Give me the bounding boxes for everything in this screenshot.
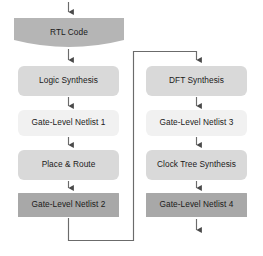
node-place-and-route-label: Place & Route	[42, 160, 96, 169]
node-gate-level-netlist-2-label: Gate-Level Netlist 2	[32, 200, 106, 209]
node-dft-synthesis-label: DFT Synthesis	[169, 76, 224, 85]
node-rtl-code[interactable]: RTL Code	[14, 18, 124, 47]
node-clock-tree-synthesis[interactable]: Clock Tree Synthesis	[146, 150, 247, 180]
node-gate-level-netlist-1-label: Gate-Level Netlist 1	[32, 118, 106, 127]
flowchart-diagram: RTL Code Logic Synthesis Gate-Level Netl…	[0, 0, 263, 256]
node-gate-level-netlist-2[interactable]: Gate-Level Netlist 2	[18, 193, 119, 217]
node-clock-tree-synthesis-label: Clock Tree Synthesis	[157, 160, 236, 169]
node-gate-level-netlist-1[interactable]: Gate-Level Netlist 1	[18, 110, 119, 136]
node-rtl-code-label: RTL Code	[50, 28, 88, 37]
node-logic-synthesis[interactable]: Logic Synthesis	[18, 66, 119, 96]
node-gate-level-netlist-4-label: Gate-Level Netlist 4	[160, 200, 234, 209]
node-place-and-route[interactable]: Place & Route	[18, 150, 119, 180]
node-gate-level-netlist-4[interactable]: Gate-Level Netlist 4	[146, 193, 247, 217]
node-gate-level-netlist-3-label: Gate-Level Netlist 3	[160, 118, 234, 127]
node-gate-level-netlist-3[interactable]: Gate-Level Netlist 3	[146, 110, 247, 136]
node-logic-synthesis-label: Logic Synthesis	[39, 76, 98, 85]
node-dft-synthesis[interactable]: DFT Synthesis	[146, 66, 247, 96]
